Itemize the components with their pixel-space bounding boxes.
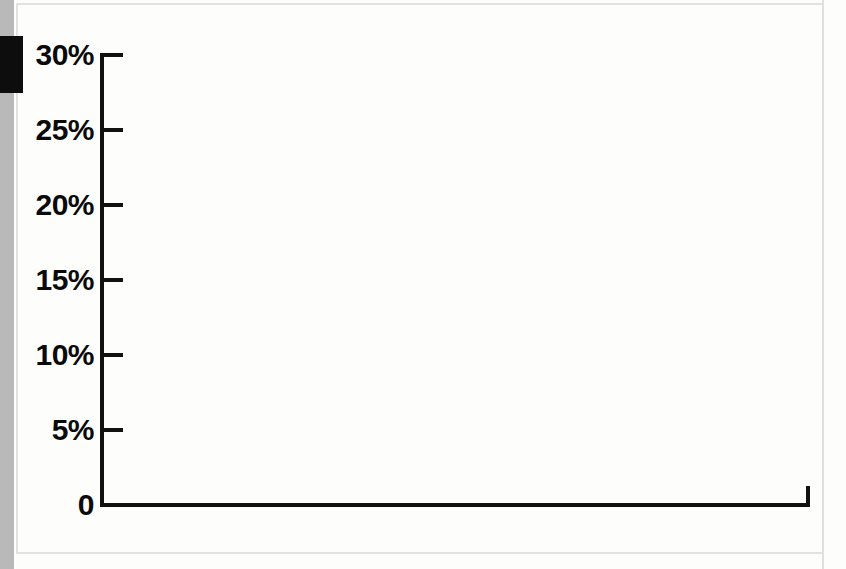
y-tick-mark-30 — [104, 53, 123, 57]
y-tick-mark-10 — [104, 353, 123, 357]
y-tick-mark-20 — [104, 203, 123, 207]
x-axis-end-cap — [806, 486, 810, 507]
y-tick-label-5: 5% — [0, 413, 94, 447]
y-tick-mark-25 — [104, 128, 123, 132]
y-tick-label-10: 10% — [0, 338, 94, 372]
y-tick-mark-5 — [104, 428, 123, 432]
y-tick-label-20: 20% — [0, 188, 94, 222]
y-tick-label-0: 0 — [0, 488, 94, 522]
y-tick-mark-15 — [104, 278, 123, 282]
x-axis-line — [100, 503, 810, 507]
bar-chart: 30% 25% 20% 15% 10% 5% 0 To find a bette… — [0, 0, 846, 569]
y-tick-label-30: 30% — [0, 38, 94, 72]
chart-page: 30% 25% 20% 15% 10% 5% 0 To find a bette… — [0, 0, 846, 569]
y-tick-label-25: 25% — [0, 113, 94, 147]
y-tick-label-15: 15% — [0, 263, 94, 297]
